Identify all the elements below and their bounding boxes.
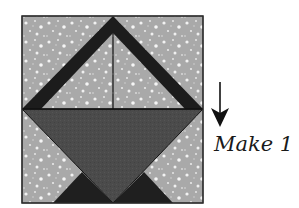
basket-quilt-block-diagram <box>0 0 299 208</box>
make-count-caption: Make 1 <box>214 134 293 155</box>
arrow-down-icon <box>211 82 229 127</box>
